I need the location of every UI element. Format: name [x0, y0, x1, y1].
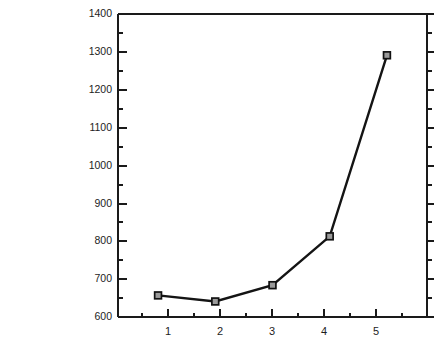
- y-tick-label: 1300: [89, 45, 113, 57]
- y-tick-label: 1200: [89, 83, 113, 95]
- data-point-marker: [269, 282, 276, 289]
- data-point-marker: [212, 298, 219, 305]
- x-tick-label: 5: [373, 325, 379, 337]
- y-tick-label: 1100: [89, 121, 112, 133]
- data-point-marker: [384, 52, 391, 59]
- x-tick-label: 4: [321, 325, 327, 337]
- data-point-marker: [326, 233, 333, 240]
- y-tick-label: 800: [94, 234, 112, 246]
- x-tick-label: 3: [269, 325, 275, 337]
- x-tick-label: 1: [165, 325, 171, 337]
- y-tick-label: 1400: [89, 7, 113, 19]
- y-tick-label: 600: [94, 310, 112, 322]
- data-point-marker: [155, 292, 162, 299]
- chart-figure: Response Time in msec.: [0, 0, 442, 341]
- y-tick-label: 900: [94, 197, 112, 209]
- x-tick-label: 2: [217, 325, 223, 337]
- y-tick-label: 700: [94, 272, 112, 284]
- line-chart-plot: 600 700 800 900 1000 1100 1200 1300 1400…: [0, 0, 442, 341]
- y-tick-label: 1000: [89, 159, 113, 171]
- chart-background: [0, 0, 442, 341]
